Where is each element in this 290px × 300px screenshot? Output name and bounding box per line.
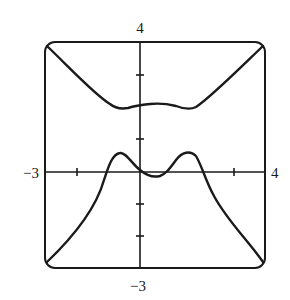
y-max-label: 4 (136, 20, 144, 36)
x-max-label: 4 (271, 165, 279, 181)
x-min-label: −3 (23, 165, 39, 181)
lower-curve (47, 153, 263, 262)
chart: 4 −3 −3 4 (0, 0, 290, 300)
y-min-label: −3 (130, 278, 146, 294)
upper-curve (47, 46, 263, 109)
